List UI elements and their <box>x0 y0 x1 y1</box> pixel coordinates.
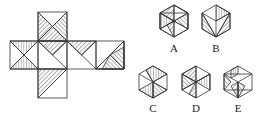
option-cubes <box>139 5 252 98</box>
net-face-left <box>10 41 38 69</box>
net-face-center <box>38 41 67 69</box>
net-face-bottom <box>38 69 67 98</box>
option-label-b: B <box>212 43 219 54</box>
option-cube-b <box>202 5 230 37</box>
option-cube-d <box>182 66 210 98</box>
option-cube-c <box>139 66 167 98</box>
puzzle-figure <box>0 0 262 121</box>
cube-net <box>10 12 124 98</box>
net-face-top <box>38 12 67 41</box>
option-label-c: C <box>149 103 156 114</box>
option-label-a: A <box>170 43 178 54</box>
option-label-d: D <box>192 103 200 114</box>
net-face-right1 <box>67 41 96 69</box>
option-cube-a <box>160 5 188 37</box>
net-face-right2 <box>96 41 124 69</box>
option-cube-e <box>224 66 252 98</box>
option-label-e: E <box>235 103 242 114</box>
